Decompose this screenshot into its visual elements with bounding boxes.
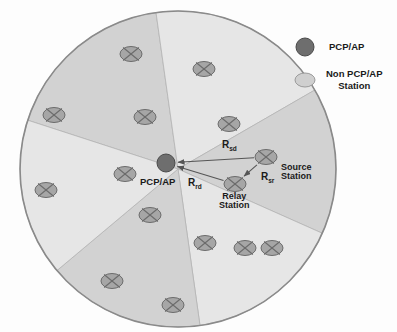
station-node-generic <box>139 208 161 223</box>
legend-item-pcp-ap-text: PCP/AP <box>329 41 364 53</box>
station-node-generic <box>194 236 216 251</box>
link-source-to-relay-label: Rsr <box>261 172 274 185</box>
network-topology-figure: PCP/APRsdRrdRsrSourceStationRelayStation… <box>0 0 397 332</box>
station-node-generic <box>193 62 215 77</box>
station-node-generic <box>114 167 136 182</box>
station-node-generic <box>120 47 142 62</box>
access-point-group <box>157 154 175 172</box>
station-node-generic <box>35 183 57 198</box>
pcp-ap-node <box>157 154 175 172</box>
link-source-to-destination-label: Rsd <box>222 140 237 153</box>
station-node-generic <box>101 274 123 289</box>
station-node-generic <box>162 298 184 313</box>
station-node-generic <box>134 110 156 125</box>
legend-item-non-pcp-ap-station-text: Non PCP/APStation <box>326 68 382 92</box>
legend-marker-station <box>295 73 315 87</box>
relay-station-label: RelayStation <box>219 192 250 211</box>
link-relay-to-destination-label: Rrd <box>188 178 202 191</box>
legend-marker-group <box>295 38 315 87</box>
source-station-label: SourceStation <box>281 163 312 182</box>
legend-marker-pcp-ap <box>296 38 314 56</box>
station-node-generic <box>234 241 256 256</box>
station-node-generic <box>261 241 283 256</box>
station-node-generic <box>218 117 240 132</box>
station-node-source <box>255 150 277 165</box>
pcp-ap-label: PCP/AP <box>140 177 175 187</box>
station-node-relay <box>224 177 246 192</box>
station-node-generic <box>43 108 65 123</box>
